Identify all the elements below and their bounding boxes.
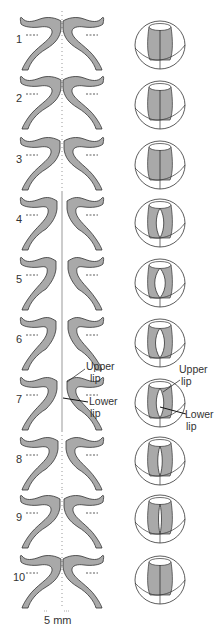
vocal-fold-vibration-diagram: 12345678910 Upper lip Lower lip Upper li… bbox=[0, 0, 221, 629]
right-vocal-fold bbox=[64, 495, 104, 548]
glottis-view-9 bbox=[135, 495, 185, 543]
right-vocal-fold bbox=[66, 437, 104, 490]
stage-number: 8 bbox=[16, 453, 22, 465]
scale-bar: 5 mm bbox=[44, 611, 72, 626]
stages-group: 12345678910 bbox=[13, 11, 185, 609]
stage-4: 4 bbox=[16, 191, 185, 251]
upper-lip-label-right: Upper bbox=[179, 363, 208, 375]
stage-3: 3 bbox=[16, 131, 185, 191]
stage-number: 2 bbox=[16, 92, 22, 104]
glottis-view-3 bbox=[135, 141, 185, 189]
stage-number: 5 bbox=[16, 273, 22, 285]
lower-lip-label-left: Lower bbox=[89, 395, 118, 407]
top-opening bbox=[149, 144, 171, 151]
stage-number: 9 bbox=[16, 511, 22, 523]
stage-2: 2 bbox=[16, 70, 185, 130]
glottis-view-2 bbox=[135, 81, 185, 129]
glottis-view-10 bbox=[135, 556, 185, 604]
left-vocal-fold bbox=[20, 495, 60, 548]
left-vocal-fold bbox=[20, 76, 61, 129]
glottis-view-5 bbox=[135, 259, 185, 307]
scale-bar-label: 5 mm bbox=[44, 614, 72, 626]
right-vocal-fold bbox=[64, 137, 104, 190]
stage-number: 10 bbox=[13, 571, 25, 583]
stage-number: 1 bbox=[16, 33, 22, 45]
glottal-slit bbox=[158, 446, 163, 476]
right-vocal-fold bbox=[63, 555, 104, 608]
glottis-view-8 bbox=[135, 437, 185, 485]
lower-lip-label-right-2: lip bbox=[186, 420, 197, 432]
top-opening bbox=[149, 84, 171, 91]
stage-10: 10 bbox=[13, 549, 185, 609]
glottis-view-6 bbox=[135, 319, 185, 367]
stage-8: 8 bbox=[16, 431, 185, 491]
right-vocal-fold bbox=[63, 76, 104, 129]
upper-lip-label-left: Upper bbox=[86, 360, 115, 372]
left-vocal-fold bbox=[20, 377, 57, 430]
stage-1: 1 bbox=[16, 11, 185, 71]
left-vocal-fold bbox=[20, 257, 56, 310]
right-vocal-fold bbox=[68, 257, 104, 310]
upper-lip-label-right-2: lip bbox=[181, 375, 192, 387]
top-opening bbox=[149, 24, 171, 31]
left-vocal-fold bbox=[20, 317, 56, 370]
stage-9: 9 bbox=[16, 489, 185, 549]
glottal-slit bbox=[159, 504, 162, 534]
right-vocal-fold bbox=[67, 197, 104, 250]
left-vocal-fold bbox=[20, 137, 60, 190]
stage-number: 3 bbox=[16, 153, 22, 165]
lower-lip-label-left-2: lip bbox=[90, 407, 101, 419]
stage-5: 5 bbox=[16, 251, 185, 311]
left-vocal-fold bbox=[20, 197, 57, 250]
top-opening bbox=[149, 498, 171, 505]
left-vocal-fold bbox=[20, 17, 61, 70]
lower-lip-label-right: Lower bbox=[185, 408, 214, 420]
glottis-view-1 bbox=[135, 21, 185, 69]
right-vocal-fold bbox=[63, 17, 104, 70]
glottis-view-4 bbox=[135, 199, 185, 247]
top-opening bbox=[149, 559, 171, 566]
glottis-view-7 bbox=[135, 379, 185, 427]
left-vocal-fold bbox=[20, 437, 58, 490]
stage-number: 4 bbox=[16, 213, 22, 225]
left-vocal-fold bbox=[20, 555, 61, 608]
stage-number: 7 bbox=[16, 393, 22, 405]
upper-lip-label-left-2: lip bbox=[90, 372, 101, 384]
stage-number: 6 bbox=[16, 333, 22, 345]
